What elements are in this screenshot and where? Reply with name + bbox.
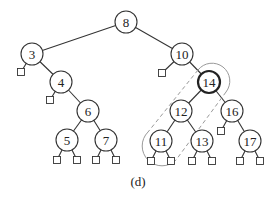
nil-leaf-square bbox=[113, 157, 120, 164]
node-label: 10 bbox=[176, 47, 189, 62]
nil-leaf-square bbox=[159, 70, 166, 77]
node-label: 8 bbox=[123, 15, 130, 30]
tree-node-16: 16 bbox=[221, 100, 243, 122]
node-label: 13 bbox=[196, 134, 209, 149]
nil-leaf-square bbox=[218, 128, 225, 135]
node-label: 5 bbox=[64, 133, 71, 148]
nil-leaf-square bbox=[257, 158, 264, 165]
nil-leaf-square bbox=[74, 157, 81, 164]
nil-leaf-square bbox=[189, 158, 196, 165]
figure-caption: (d) bbox=[0, 174, 276, 190]
tree-node-5: 5 bbox=[56, 129, 78, 151]
nil-leaf-square bbox=[148, 158, 155, 165]
nil-leaf-square bbox=[93, 157, 100, 164]
tree-nodes: 83104146121657111317 bbox=[21, 11, 261, 152]
binary-tree-diagram: 83104146121657111317 bbox=[0, 0, 276, 200]
nil-leaf-square bbox=[168, 158, 175, 165]
nil-leaf-square bbox=[47, 97, 54, 104]
node-label: 11 bbox=[155, 134, 168, 149]
node-label: 7 bbox=[103, 133, 110, 148]
tree-node-12: 12 bbox=[170, 100, 192, 122]
node-label: 17 bbox=[244, 134, 258, 149]
node-label: 14 bbox=[203, 75, 217, 90]
nil-leaf-square bbox=[54, 157, 61, 164]
tree-node-7: 7 bbox=[95, 129, 117, 151]
tree-node-6: 6 bbox=[77, 100, 99, 122]
tree-edge bbox=[32, 22, 126, 54]
nil-leaf-square bbox=[18, 69, 25, 76]
tree-node-17: 17 bbox=[239, 130, 261, 152]
tree-node-14: 14 bbox=[198, 71, 220, 93]
node-label: 3 bbox=[29, 47, 36, 62]
nil-leaf-square bbox=[209, 158, 216, 165]
tree-node-10: 10 bbox=[171, 43, 193, 65]
tree-node-4: 4 bbox=[50, 71, 72, 93]
node-label: 4 bbox=[58, 75, 65, 90]
node-label: 6 bbox=[85, 104, 92, 119]
nil-leaf-square bbox=[237, 158, 244, 165]
tree-node-3: 3 bbox=[21, 43, 43, 65]
tree-node-13: 13 bbox=[191, 130, 213, 152]
tree-node-8: 8 bbox=[115, 11, 137, 33]
tree-node-11: 11 bbox=[150, 130, 172, 152]
node-label: 16 bbox=[226, 104, 240, 119]
node-label: 12 bbox=[175, 104, 188, 119]
